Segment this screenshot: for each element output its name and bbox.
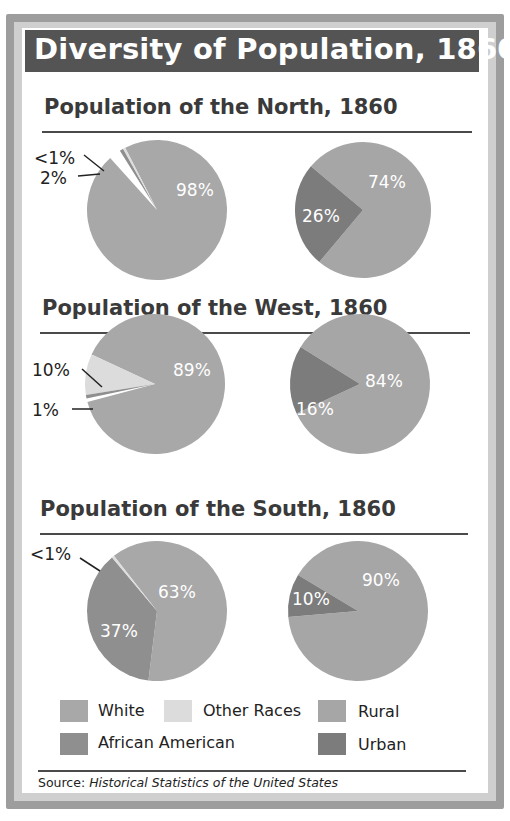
legend-swatch-other-races xyxy=(164,700,192,722)
slice-label: <1% xyxy=(34,148,75,168)
legend-label-urban: Urban xyxy=(358,735,406,754)
slice-label: 63% xyxy=(158,582,196,602)
slice-label: 26% xyxy=(302,206,340,226)
slice-label: 84% xyxy=(365,371,403,391)
leader-line xyxy=(80,558,100,571)
legend-label-african-american: African American xyxy=(98,733,235,752)
legend-swatch-african-american xyxy=(60,733,88,755)
legend-swatch-white xyxy=(60,700,88,722)
legend-swatch-rural xyxy=(318,700,346,722)
slice-label: 74% xyxy=(368,172,406,192)
slice-label: 10% xyxy=(292,589,330,609)
slice-label: 89% xyxy=(173,360,211,380)
legend-label-other-races: Other Races xyxy=(203,701,301,720)
leader-line xyxy=(84,155,104,171)
slice-label: 98% xyxy=(176,180,214,200)
slice-label: 16% xyxy=(296,399,334,419)
slice-label: 37% xyxy=(100,621,138,641)
slice-label: 90% xyxy=(362,570,400,590)
source-title: Historical Statistics of the United Stat… xyxy=(89,775,338,790)
slice-label: 2% xyxy=(40,168,67,188)
slice-label: 10% xyxy=(32,360,70,380)
legend-label-white: White xyxy=(98,701,145,720)
pie-charts: 98%2%<1% 74%26% 89%10%1% 84%16% 63%37%<1… xyxy=(0,0,510,821)
pie-west-rural-urban: 84%16% xyxy=(290,314,430,454)
legend-swatch-urban xyxy=(318,733,346,755)
pie-south-race: 63%37%<1% xyxy=(30,541,227,681)
pie-north-race: 98%2%<1% xyxy=(34,140,227,280)
source-note: Source: Historical Statistics of the Uni… xyxy=(38,775,338,790)
legend-label-rural: Rural xyxy=(358,702,399,721)
slice-label: <1% xyxy=(30,544,71,564)
slice-label: 1% xyxy=(32,400,59,420)
source-prefix: Source: xyxy=(38,775,89,790)
pie-north-rural-urban: 74%26% xyxy=(295,142,431,278)
pie-west-race: 89%10%1% xyxy=(32,314,225,454)
source-rule xyxy=(38,770,466,772)
pie-south-rural-urban: 90%10% xyxy=(288,541,428,681)
